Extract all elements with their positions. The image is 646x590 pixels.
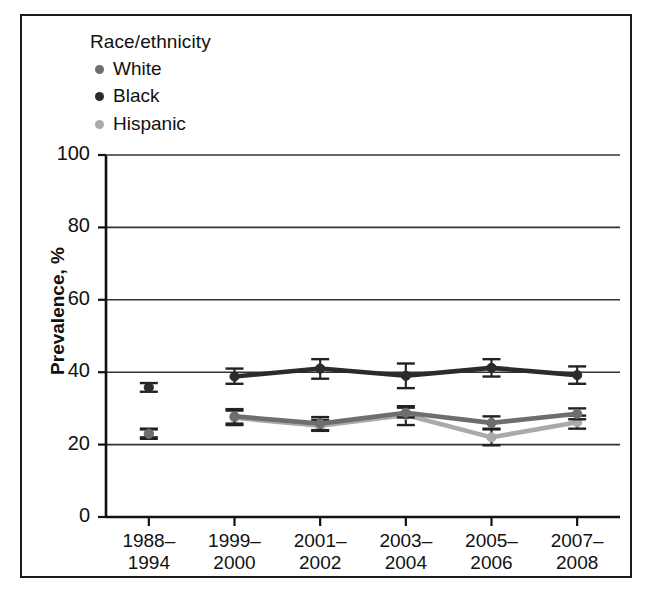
- chart-svg: [0, 0, 646, 590]
- plot-area: [0, 0, 646, 590]
- figure-container: Race/ethnicity White Black Hispanic Prev…: [0, 0, 646, 590]
- series-hispanic: [140, 406, 586, 445]
- data-point: [401, 371, 410, 380]
- data-point: [401, 408, 410, 417]
- data-point: [487, 433, 496, 442]
- data-point: [573, 409, 582, 418]
- data-point: [230, 412, 239, 421]
- data-point: [144, 429, 153, 438]
- series-black: [140, 359, 586, 392]
- data-point: [487, 363, 496, 372]
- data-point: [144, 383, 153, 392]
- data-point: [316, 419, 325, 428]
- data-point: [316, 364, 325, 373]
- data-point: [573, 370, 582, 379]
- data-point: [230, 372, 239, 381]
- data-point: [487, 418, 496, 427]
